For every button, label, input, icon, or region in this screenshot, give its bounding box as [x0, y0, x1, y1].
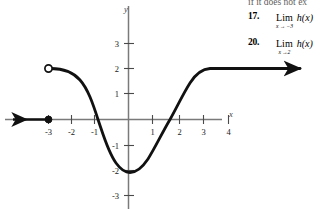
limit-subscript: x →2 — [276, 49, 293, 55]
limit-operator: Lim x → −3 — [276, 12, 293, 29]
exercise-item-17: 17. Lim x → −3 h(x) — [246, 10, 333, 36]
exercise-expression: Lim x → −3 h(x) — [276, 10, 313, 29]
open-circle-icon — [45, 65, 52, 72]
limit-function: h(x) — [297, 12, 313, 23]
figure-root: -3 -2 -1 1 2 3 4 3 2 1 -1 -2 -3 x y if i… — [0, 0, 333, 209]
limit-word: Lim — [276, 38, 293, 49]
exercise-item-20: 20. Lim x →2 h(x) — [246, 36, 333, 62]
x-tick-label: -1 — [91, 127, 98, 137]
x-tick-label: 1 — [150, 127, 154, 137]
y-tick-label: -3 — [112, 191, 119, 201]
x-tick-label: 4 — [226, 127, 231, 137]
y-tick-label: 2 — [115, 64, 119, 74]
x-axis-label: x — [228, 109, 233, 119]
filled-dot-icon — [45, 116, 52, 123]
x-tick-label: -2 — [68, 127, 75, 137]
exercise-number: 17. — [248, 11, 259, 21]
y-tick-label: -1 — [112, 141, 119, 151]
limit-word: Lim — [276, 12, 293, 23]
x-tick-label: 3 — [201, 127, 205, 137]
y-axis-label: y — [123, 4, 128, 14]
x-tick-label: 2 — [177, 127, 181, 137]
limit-operator: Lim x →2 — [276, 38, 293, 55]
function-curve — [51, 69, 300, 173]
y-tick-label: 3 — [115, 39, 119, 49]
exercise-expression: Lim x →2 h(x) — [276, 36, 313, 55]
x-tick-label: -3 — [45, 127, 52, 137]
limit-subscript: x → −3 — [276, 23, 293, 29]
limit-function: h(x) — [297, 38, 313, 49]
cut-off-text-line: if it does not ex — [248, 0, 307, 7]
exercise-number: 20. — [248, 37, 259, 47]
y-tick-label: 1 — [115, 89, 119, 99]
